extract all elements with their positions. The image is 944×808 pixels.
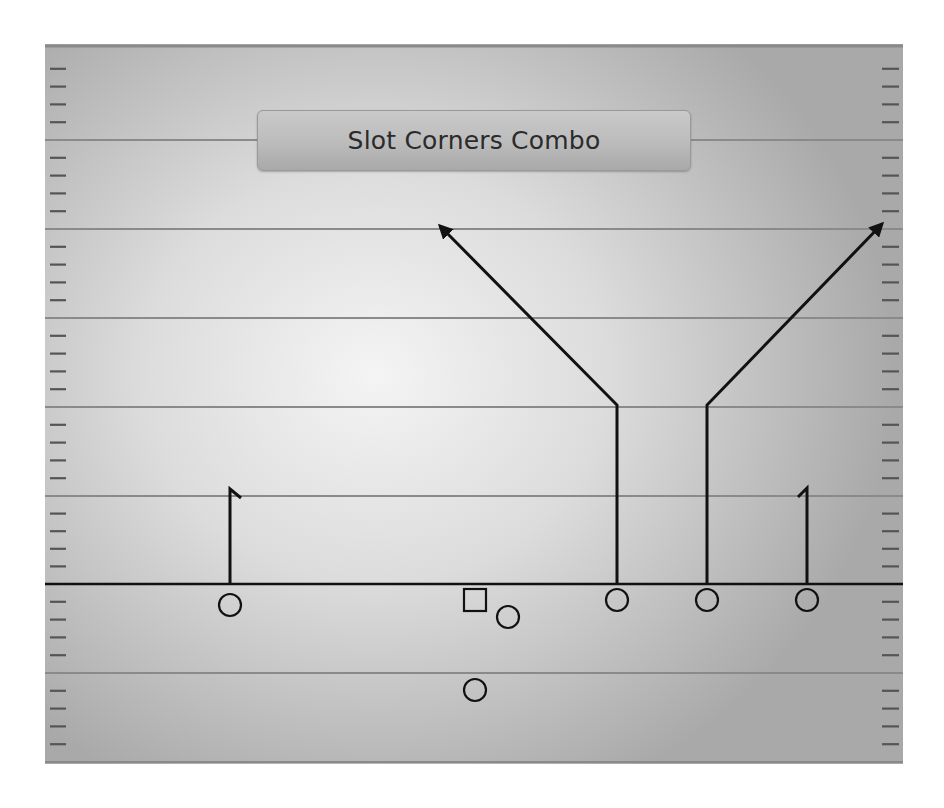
left-wr-player-icon (219, 594, 241, 616)
quarterback-player-icon (464, 679, 486, 701)
right-wr-player-icon (796, 589, 818, 611)
running-back-player-icon (497, 606, 519, 628)
left-slot-corner-route (440, 226, 617, 584)
routes (230, 224, 882, 584)
play-title: Slot Corners Combo (348, 126, 601, 155)
right-wr-hitch-route (798, 488, 807, 584)
right-slot-player-icon (696, 589, 718, 611)
center-player-icon (464, 589, 486, 611)
left-slot-player-icon (606, 589, 628, 611)
players (219, 589, 818, 701)
left-wr-hitch-route (230, 489, 241, 584)
play-title-banner: Slot Corners Combo (257, 110, 691, 171)
right-slot-corner-route (707, 224, 882, 584)
